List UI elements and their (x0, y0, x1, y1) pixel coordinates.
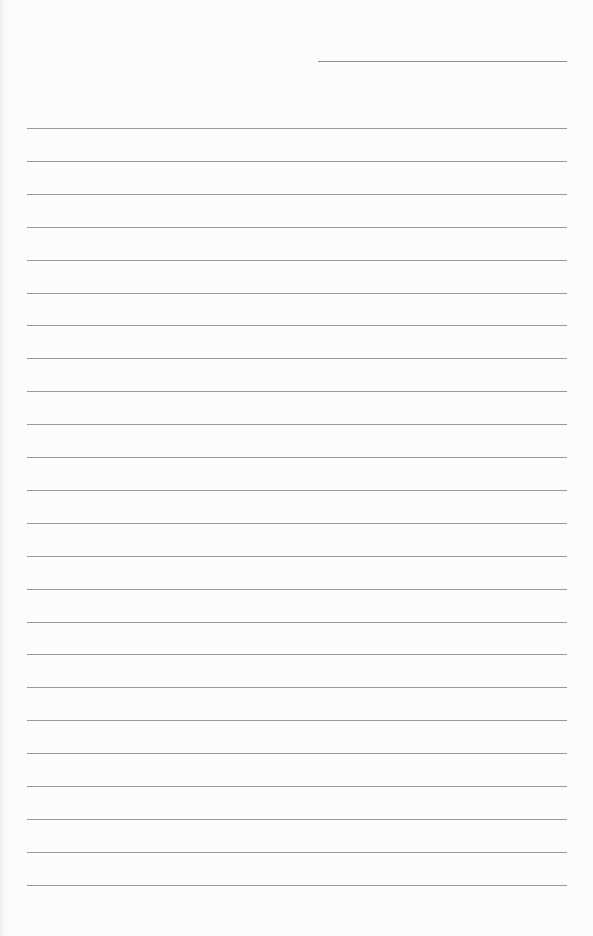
ruled-line (27, 589, 567, 590)
ruled-line (27, 523, 567, 524)
ruled-line (27, 819, 567, 820)
paper-edge-shadow (0, 0, 6, 936)
name-date-line (318, 61, 567, 62)
ruled-line (27, 885, 567, 886)
ruled-line (27, 556, 567, 557)
ruled-line (27, 852, 567, 853)
ruled-line (27, 654, 567, 655)
ruled-line (27, 161, 567, 162)
ruled-line (27, 260, 567, 261)
ruled-line (27, 424, 567, 425)
ruled-line (27, 293, 567, 294)
ruled-line (27, 358, 567, 359)
ruled-line (27, 457, 567, 458)
ruled-line (27, 128, 567, 129)
ruled-line (27, 720, 567, 721)
ruled-line (27, 490, 567, 491)
ruled-line (27, 687, 567, 688)
ruled-line (27, 391, 567, 392)
ruled-line (27, 786, 567, 787)
ruled-line (27, 753, 567, 754)
ruled-line (27, 325, 567, 326)
ruled-line (27, 194, 567, 195)
ruled-line (27, 227, 567, 228)
ruled-line (27, 622, 567, 623)
